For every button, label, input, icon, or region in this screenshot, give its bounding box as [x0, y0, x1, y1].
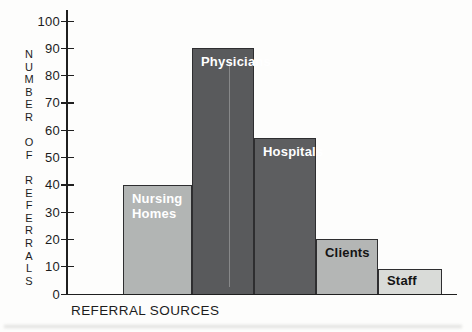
y-axis-title-letter: E — [22, 188, 36, 199]
y-axis-title-letter: E — [22, 99, 36, 110]
y-axis-title-letter: R — [22, 238, 36, 249]
bar-label: Staff — [387, 273, 417, 288]
bar-label: Nursing Homes — [132, 191, 189, 221]
referral-bar-chart: 1009080706050403020100 NUMBEROFREFERRALS… — [0, 0, 472, 332]
y-axis-title-letter: N — [22, 49, 36, 60]
y-axis-title-letter: L — [22, 263, 36, 274]
y-tick-mark — [61, 75, 74, 76]
y-axis-title-letter: M — [22, 74, 36, 85]
bar-nursing-homes: Nursing Homes — [123, 185, 192, 294]
x-axis-title: REFERRAL SOURCES — [71, 303, 219, 318]
y-tick-mark — [61, 157, 74, 158]
scan-artifact-streak — [229, 63, 230, 287]
y-axis-title-letter: F — [22, 150, 36, 161]
y-axis-title-letter: R — [22, 175, 36, 186]
bar-clients: Clients — [316, 239, 378, 294]
y-tick-label: 100 — [30, 15, 60, 28]
y-tick-label: 0 — [30, 288, 60, 301]
bar-physicians: Physicians — [192, 48, 254, 294]
y-tick-mark — [61, 212, 74, 213]
y-axis-title-letter: B — [22, 87, 36, 98]
y-tick-label: 60 — [30, 124, 60, 137]
y-tick-mark — [61, 184, 74, 185]
y-axis-title-letter: R — [22, 112, 36, 123]
y-tick-mark — [61, 48, 74, 49]
y-axis-title-letter: S — [22, 276, 36, 287]
y-axis-line — [66, 10, 68, 294]
bar-staff: Staff — [378, 269, 442, 294]
y-tick-mark — [61, 102, 74, 103]
y-axis-title-letter: U — [22, 62, 36, 73]
y-axis-title-letter: F — [22, 200, 36, 211]
y-axis-title-letter: R — [22, 225, 36, 236]
y-tick-mark — [61, 130, 74, 131]
y-axis-title-letter: O — [22, 137, 36, 148]
bar-label: Clients — [325, 245, 370, 260]
y-tick-mark — [61, 21, 74, 22]
bar-label: Physicians — [201, 54, 251, 69]
y-tick-mark — [61, 266, 74, 267]
bar-hospitals: Hospitals — [254, 138, 316, 294]
y-tick-mark — [61, 239, 74, 240]
scan-artifact-smudge — [4, 325, 462, 328]
bar-label: Hospitals — [263, 144, 313, 159]
y-axis-title-letter: E — [22, 213, 36, 224]
y-axis-title-letter: A — [22, 251, 36, 262]
y-tick-mark — [61, 294, 74, 295]
